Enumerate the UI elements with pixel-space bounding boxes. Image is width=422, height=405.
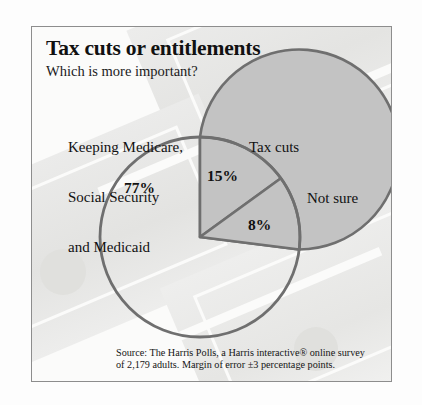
infographic-stage: Tax cuts or entitlements Which is more i…	[0, 0, 422, 405]
label-entitlements-line3: and Medicaid	[68, 239, 183, 256]
label-tax-cuts: Tax cuts	[249, 139, 299, 156]
value-tax-cuts: 15%	[207, 167, 238, 185]
value-not-sure: 8%	[248, 216, 271, 234]
source-line-2: of 2,179 adults. Margin of error ±3 perc…	[116, 359, 383, 371]
source-note: Source: The Harris Polls, a Harris inter…	[116, 347, 383, 372]
infographic-frame: Tax cuts or entitlements Which is more i…	[31, 26, 392, 382]
value-entitlements: 77%	[124, 179, 155, 197]
page-title: Tax cuts or entitlements	[46, 37, 381, 60]
label-entitlements: Keeping Medicare, Social Security and Me…	[68, 105, 183, 290]
source-line-1: Source: The Harris Polls, a Harris inter…	[116, 347, 383, 359]
page-subtitle: Which is more important?	[46, 63, 381, 80]
label-not-sure: Not sure	[307, 190, 358, 207]
header: Tax cuts or entitlements Which is more i…	[46, 37, 381, 80]
label-entitlements-line1: Keeping Medicare,	[68, 139, 183, 156]
